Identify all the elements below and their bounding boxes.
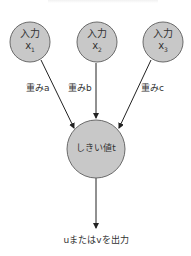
input-node-2-text: 入力 x2 [77,28,117,53]
weight-a-label: 重みa [26,84,50,93]
threshold-node-text: しきい値t [67,143,125,154]
weight-b-label: 重みb [68,84,92,93]
input-node-3-text: 入力 x3 [143,28,183,53]
input-node-1-text: 入力 x1 [10,28,50,53]
edge-x3 [119,60,151,128]
edge-x1 [41,60,74,128]
weight-c-label: 重みc [141,84,164,93]
output-label: uまたはvを出力 [60,236,132,245]
